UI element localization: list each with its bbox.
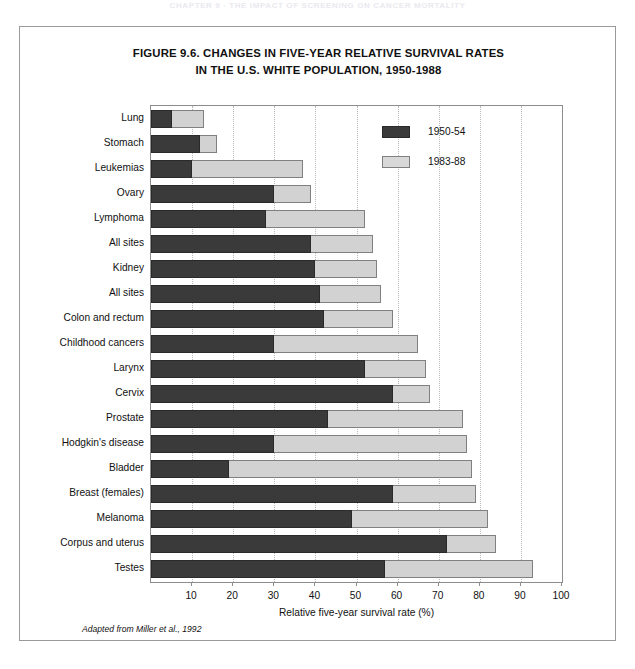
- legend-item: 1983-88: [382, 151, 542, 181]
- legend-item: 1950-54: [382, 121, 542, 151]
- x-tick-mark: [273, 582, 274, 586]
- x-tick-mark: [520, 582, 521, 586]
- x-tick-label: 60: [391, 590, 402, 601]
- bar-row: [151, 185, 562, 203]
- figure-container: FIGURE 9.6. CHANGES IN FIVE-YEAR RELATIV…: [19, 26, 616, 641]
- x-tick-mark: [479, 582, 480, 586]
- bar-1950-54: [151, 210, 266, 228]
- source-note: Adapted from Miller et al., 1992: [82, 624, 201, 634]
- category-label: All sites: [109, 284, 144, 302]
- figure-title: FIGURE 9.6. CHANGES IN FIVE-YEAR RELATIV…: [20, 45, 617, 79]
- category-label: Leukemias: [95, 159, 144, 177]
- category-label: Corpus and uterus: [60, 534, 144, 552]
- bar-1950-54: [151, 110, 172, 128]
- bar-1950-54: [151, 385, 393, 403]
- bar-1950-54: [151, 160, 192, 178]
- bar-row: [151, 260, 562, 278]
- legend-label: 1983-88: [428, 152, 465, 172]
- x-tick-label: 10: [185, 590, 196, 601]
- x-tick-label: 40: [309, 590, 320, 601]
- x-tick-mark: [191, 582, 192, 586]
- figure-title-line-1: FIGURE 9.6. CHANGES IN FIVE-YEAR RELATIV…: [133, 47, 504, 59]
- bar-1950-54: [151, 360, 365, 378]
- bar-row: [151, 560, 562, 578]
- category-label: Testes: [115, 559, 144, 577]
- category-axis-labels: LungStomachLeukemiasOvaryLymphomaAll sit…: [20, 105, 144, 581]
- figure-title-line-2: IN THE U.S. WHITE POPULATION, 1950-1988: [20, 62, 617, 79]
- category-label: Breast (females): [69, 484, 144, 502]
- bar-1950-54: [151, 560, 385, 578]
- bar-row: [151, 285, 562, 303]
- chart-legend: 1950-541983-88: [382, 121, 542, 181]
- bar-1950-54: [151, 535, 447, 553]
- bar-row: [151, 435, 562, 453]
- bar-row: [151, 460, 562, 478]
- bar-1950-54: [151, 135, 200, 153]
- x-tick-label: 50: [350, 590, 361, 601]
- bar-1950-54: [151, 435, 274, 453]
- bar-row: [151, 385, 562, 403]
- bar-1950-54: [151, 335, 274, 353]
- category-label: Lung: [121, 109, 144, 127]
- category-label: Melanoma: [96, 509, 144, 527]
- bar-1950-54: [151, 510, 352, 528]
- x-tick-mark: [397, 582, 398, 586]
- bar-row: [151, 335, 562, 353]
- bar-row: [151, 510, 562, 528]
- x-tick-label: 90: [514, 590, 525, 601]
- bar-1950-54: [151, 310, 324, 328]
- category-label: Prostate: [106, 409, 144, 427]
- category-label: Cervix: [115, 384, 144, 402]
- x-axis-ticks: 102030405060708090100: [150, 583, 563, 597]
- category-label: Kidney: [113, 259, 144, 277]
- legend-swatch-icon: [382, 126, 410, 138]
- bar-row: [151, 535, 562, 553]
- legend-label: 1950-54: [428, 122, 465, 142]
- bar-1950-54: [151, 460, 229, 478]
- bar-row: [151, 410, 562, 428]
- x-tick-mark: [561, 582, 562, 586]
- bar-1950-54: [151, 235, 311, 253]
- bar-row: [151, 210, 562, 228]
- bar-1950-54: [151, 410, 328, 428]
- x-tick-mark: [232, 582, 233, 586]
- bar-1950-54: [151, 185, 274, 203]
- x-tick-label: 100: [553, 590, 570, 601]
- bar-1950-54: [151, 485, 393, 503]
- category-label: Colon and rectum: [64, 309, 144, 327]
- category-label: Stomach: [104, 134, 144, 152]
- x-tick-mark: [314, 582, 315, 586]
- category-label: Ovary: [117, 184, 144, 202]
- category-label: Lymphoma: [94, 209, 144, 227]
- category-label: Hodgkin's disease: [62, 434, 144, 452]
- category-label: Childhood cancers: [60, 334, 144, 352]
- category-label: All sites: [109, 234, 144, 252]
- bar-row: [151, 235, 562, 253]
- x-tick-mark: [356, 582, 357, 586]
- x-axis-title: Relative five-year survival rate (%): [150, 607, 563, 618]
- bar-1950-54: [151, 285, 320, 303]
- legend-swatch-icon: [382, 156, 410, 168]
- bar-row: [151, 485, 562, 503]
- page-canvas: CHAPTER 9 · THE IMPACT OF SCREENING ON C…: [0, 0, 635, 669]
- x-tick-label: 20: [227, 590, 238, 601]
- x-tick-mark: [438, 582, 439, 586]
- bar-row: [151, 310, 562, 328]
- bar-1950-54: [151, 260, 315, 278]
- category-label: Bladder: [109, 459, 144, 477]
- x-tick-label: 80: [473, 590, 484, 601]
- x-tick-label: 30: [268, 590, 279, 601]
- running-header: CHAPTER 9 · THE IMPACT OF SCREENING ON C…: [0, 1, 635, 10]
- category-label: Larynx: [113, 359, 144, 377]
- x-tick-label: 70: [432, 590, 443, 601]
- bar-row: [151, 360, 562, 378]
